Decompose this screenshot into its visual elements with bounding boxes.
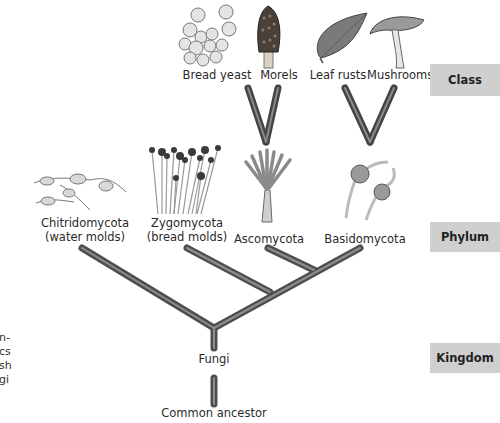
class-label-leaf-rusts: Leaf rusts [306,68,370,82]
caption-fragment: gi [0,373,12,387]
class-label-bread-yeast: Bread yeast [175,68,259,82]
rank-box-phylum: Phylum [430,222,500,252]
morel-illustration [258,6,280,68]
phylogeny-tree [0,0,500,423]
mushroom-illustration [370,17,424,68]
phylum-name: Zygomycota [142,216,232,230]
rank-box-kingdom: Kingdom [430,343,500,373]
class-label-mushrooms: Mushrooms [367,68,433,82]
phylum-label-zygomycota: Zygomycota (bread molds) [142,216,232,244]
cropped-caption: n- cs sh gi [0,331,12,387]
root-label-common-ancestor: Common ancestor [154,406,274,420]
phylum-label-chitridomycota: Chitridomycota (water molds) [30,216,140,244]
class-branches [248,88,394,142]
caption-fragment: cs [0,345,12,359]
ascomycete-illustration [246,150,290,222]
chitrid-illustration [34,174,126,210]
kingdom-label-fungi: Fungi [184,352,244,366]
bread-yeast-illustration [179,5,236,66]
phylum-common-name: (bread molds) [142,230,232,244]
phylum-label-ascomycota: Ascomycota [232,232,306,246]
leaf-rust-illustration [317,13,367,63]
rank-box-class: Class [430,64,500,96]
phylum-common-name: (water molds) [30,230,140,244]
caption-fragment: n- [0,331,12,345]
caption-fragment: sh [0,359,12,373]
phylum-label-basidomycota: Basidomycota [318,232,412,246]
basidiomycete-illustration [346,162,394,220]
phylum-name: Chitridomycota [30,216,140,230]
class-label-morels: Morels [254,68,304,82]
